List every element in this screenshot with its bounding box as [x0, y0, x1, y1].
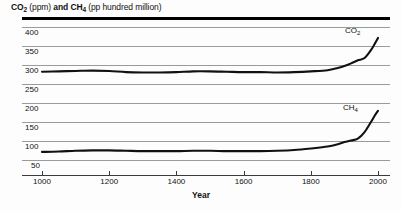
ch4-series-label: CH4	[343, 103, 358, 112]
x-axis-title: Year	[0, 190, 402, 200]
y-tick-label: 150	[25, 123, 38, 132]
gridline	[22, 122, 390, 123]
x-tick-label: 1800	[291, 177, 331, 186]
x-tick-label: 1200	[89, 177, 129, 186]
x-tick-label: 1000	[22, 177, 62, 186]
co2-series-label: CO2	[345, 26, 360, 35]
gridline	[22, 27, 390, 28]
y-tick-label: 50	[31, 161, 40, 170]
x-axis-tick	[176, 171, 177, 175]
gridline	[22, 65, 390, 66]
x-axis-tick	[244, 171, 245, 175]
gridline	[22, 103, 390, 104]
gridline	[22, 84, 390, 85]
title-ch4-subscript: 4	[82, 6, 86, 13]
x-tick-label: 1600	[224, 177, 264, 186]
y-tick-label: 300	[25, 66, 38, 75]
y-tick-label: 200	[25, 104, 38, 113]
y-tick-label: 100	[25, 142, 38, 151]
title-and-ch4: and CH	[53, 2, 82, 12]
gridline	[22, 46, 390, 47]
title-ch4-unit: (pp hundred million)	[86, 2, 161, 12]
x-axis-tick	[109, 171, 110, 175]
y-tick-label: 350	[25, 47, 38, 56]
x-tick-label: 2000	[358, 177, 398, 186]
title-co2-unit: (ppm)	[27, 2, 53, 12]
x-axis-tick	[378, 171, 379, 175]
chart-title: CO2 (ppm) and CH4 (pp hundred million)	[11, 2, 161, 12]
x-axis-line	[22, 175, 390, 176]
gridline	[22, 141, 390, 142]
y-tick-label: 250	[25, 85, 38, 94]
x-tick-label: 1400	[156, 177, 196, 186]
title-co2: CO	[11, 2, 24, 12]
gridline	[22, 160, 390, 161]
y-tick-label: 400	[25, 28, 38, 37]
x-axis-tick	[42, 171, 43, 175]
chart-figure: CO2 (ppm) and CH4 (pp hundred million) 4…	[0, 0, 402, 211]
plot-area	[22, 20, 390, 175]
title-co2-subscript: 2	[24, 6, 28, 13]
x-axis-tick	[311, 171, 312, 175]
